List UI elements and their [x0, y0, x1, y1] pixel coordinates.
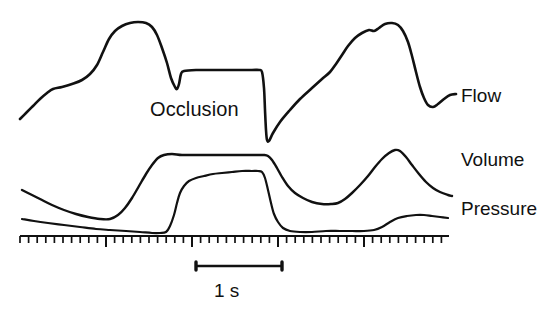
series-group	[20, 22, 456, 233]
pressure-trace-label: Pressure	[461, 199, 537, 218]
volume-trace	[22, 150, 452, 220]
occlusion-annotation: Occlusion	[150, 99, 239, 119]
flow-trace-label: Flow	[461, 86, 501, 105]
time-ruler	[20, 236, 449, 247]
flow-trace	[20, 22, 456, 142]
pressure-trace	[22, 171, 448, 233]
scale-bar	[196, 262, 282, 270]
respiratory-trace-figure: Occlusion Flow Volume Pressure 1 s	[0, 0, 552, 315]
scale-bar-label: 1 s	[214, 281, 239, 300]
volume-trace-label: Volume	[461, 150, 524, 169]
